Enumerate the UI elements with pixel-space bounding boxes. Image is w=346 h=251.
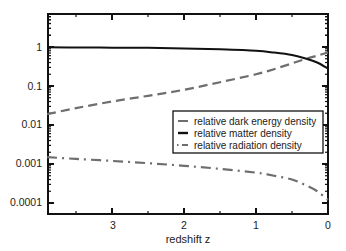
legend-label-matter: relative matter density xyxy=(194,128,292,139)
y-tick-label-0.001: 0.001 xyxy=(16,157,42,169)
x-tick-label-2: 2 xyxy=(181,219,187,231)
x-tick-label-1: 1 xyxy=(253,219,259,231)
x-tick-label-3: 3 xyxy=(110,219,116,231)
legend: relative dark energy density relative ma… xyxy=(173,111,323,153)
y-tick-label-0.01: 0.01 xyxy=(22,118,43,130)
density-chart: 1 0.1 0.01 0.001 0.0001 3 2 1 0 redshift… xyxy=(0,0,346,251)
y-axis-ticks xyxy=(48,14,328,203)
x-tick-label-0: 0 xyxy=(325,219,331,231)
y-tick-label-1: 1 xyxy=(36,41,42,53)
y-tick-label-0.0001: 0.0001 xyxy=(10,196,42,208)
legend-label-dark-energy: relative dark energy density xyxy=(194,116,316,127)
y-tick-label-0.1: 0.1 xyxy=(27,80,42,92)
series-line-dashed xyxy=(47,53,328,115)
series-line-dash-dot xyxy=(47,157,328,200)
x-axis-label: redshift z xyxy=(166,233,211,245)
legend-label-radiation: relative radiation density xyxy=(194,140,302,151)
